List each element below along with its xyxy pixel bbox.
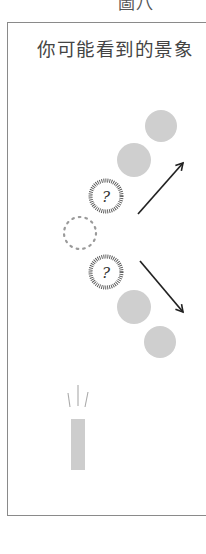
svg-text:?: ? (102, 188, 111, 206)
gray-ball-icon (145, 110, 177, 142)
gray-ball-group (117, 110, 177, 358)
light-rays-icon (68, 385, 88, 407)
diagram-canvas: ? ? (0, 0, 206, 554)
gray-ball-icon (117, 290, 151, 324)
gray-ball-icon (144, 326, 176, 358)
gray-ball-icon (117, 143, 151, 177)
unknown-ball-icon: ? (91, 257, 122, 288)
svg-text:?: ? (102, 264, 111, 282)
dotted-circle-icon (64, 217, 96, 249)
light-source-icon (71, 419, 85, 470)
unknown-ball-icon: ? (91, 181, 122, 212)
